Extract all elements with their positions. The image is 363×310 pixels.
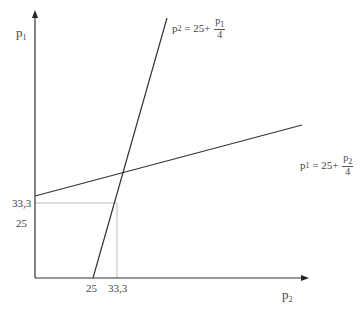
eq2-fraction: p2 4 bbox=[342, 153, 353, 178]
x-axis-label-sub: 2 bbox=[289, 295, 293, 304]
eq2-numerator: p2 bbox=[342, 153, 353, 167]
equation-steep-line: p2 = 25+ p1 4 bbox=[172, 16, 225, 41]
y-axis-arrow-icon bbox=[32, 10, 38, 18]
x-axis-label: p2 bbox=[282, 288, 293, 304]
eq2-mid: = 25+ bbox=[310, 159, 342, 171]
x-axis-arrow-icon bbox=[301, 275, 309, 281]
y-tick-25: 25 bbox=[16, 218, 27, 229]
eq2-denominator: 4 bbox=[345, 167, 350, 178]
eq1-numerator: p1 bbox=[214, 16, 225, 30]
y-axis-label-sub: 1 bbox=[23, 33, 27, 42]
x-tick-333: 33,3 bbox=[108, 283, 127, 294]
y-axis-label: p1 bbox=[16, 26, 27, 42]
eq1-num-sub: 1 bbox=[220, 20, 224, 29]
eq1-fraction: p1 4 bbox=[214, 16, 225, 41]
eq1-mid: = 25+ bbox=[182, 22, 214, 34]
shallow-line-p1 bbox=[35, 125, 302, 196]
equation-shallow-line: p1 = 25+ p2 4 bbox=[300, 153, 353, 178]
eq1-denominator: 4 bbox=[217, 30, 222, 41]
y-tick-333: 33,3 bbox=[12, 198, 31, 209]
x-tick-25: 25 bbox=[86, 283, 97, 294]
eq2-num-sub: 2 bbox=[348, 157, 352, 166]
steep-line-p2 bbox=[93, 18, 167, 278]
